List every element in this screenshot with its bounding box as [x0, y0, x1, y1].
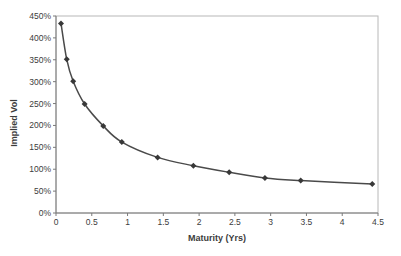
x-tick-label: 0.5 — [86, 217, 98, 227]
y-tick-label: 300% — [29, 77, 51, 87]
x-tick-label: 4.5 — [372, 217, 384, 227]
x-tick-label: 2 — [197, 217, 202, 227]
x-tick-label: 3 — [268, 217, 273, 227]
y-tick-label: 0% — [39, 208, 52, 218]
x-axis-title: Maturity (Yrs) — [188, 233, 246, 243]
implied-vol-term-structure-chart: 0%50%100%150%200%250%300%350%400%450%00.… — [0, 0, 401, 256]
y-tick-label: 250% — [29, 99, 51, 109]
plot-border — [56, 16, 378, 213]
x-tick-label: 1 — [125, 217, 130, 227]
y-axis-title: Implied Vol — [9, 99, 19, 146]
y-tick-label: 150% — [29, 142, 51, 152]
plot-area — [56, 16, 378, 213]
y-tick-label: 350% — [29, 55, 51, 65]
y-tick-label: 400% — [29, 33, 51, 43]
chart-canvas: 0%50%100%150%200%250%300%350%400%450%00.… — [0, 0, 401, 256]
y-tick-label: 200% — [29, 120, 51, 130]
y-tick-label: 450% — [29, 11, 51, 21]
x-tick-label: 3.5 — [301, 217, 313, 227]
x-tick-label: 4 — [340, 217, 345, 227]
x-tick-label: 2.5 — [229, 217, 241, 227]
y-tick-label: 100% — [29, 164, 51, 174]
x-tick-label: 0 — [54, 217, 59, 227]
y-tick-label: 50% — [34, 186, 51, 196]
x-tick-label: 1.5 — [157, 217, 169, 227]
